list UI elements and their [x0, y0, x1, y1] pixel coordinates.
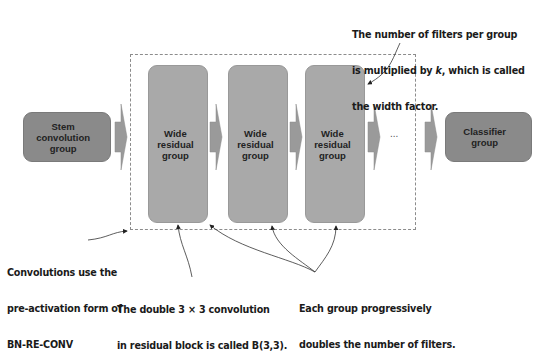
block-line-1: The double 3 × 3 convolution [117, 304, 287, 316]
doubling-pointer-icon-1 [210, 225, 315, 272]
preactivation-line-2: pre-activation form of [7, 303, 122, 315]
block-line-2: in residual block is called B(3,3). [117, 340, 287, 352]
flow-arrow-icon [210, 104, 222, 170]
annotation-preactivation: Convolutions use the pre-activation form… [7, 243, 122, 355]
width-factor-line-2: is multiplied by k, which is called [352, 65, 525, 77]
flow-arrow-icon [115, 104, 127, 170]
doubling-line-2: doubles the number of filters. [299, 339, 455, 351]
preactivation-pointer-icon [88, 231, 127, 240]
width-factor-line-2-post: , which is called [442, 65, 525, 76]
width-factor-line-3: the width factor. [352, 101, 525, 113]
doubling-pointer-icon-2 [272, 226, 315, 272]
annotation-width-factor: The number of filters per group is multi… [352, 5, 525, 125]
annotation-doubling: Each group progressively doubles the num… [299, 279, 455, 355]
block-pointer-icon [178, 225, 192, 277]
width-factor-line-2-pre: is multiplied by [352, 65, 436, 76]
preactivation-line-3: BN-RE-CONV [7, 339, 122, 351]
annotation-block: The double 3 × 3 convolution in residual… [117, 280, 287, 355]
preactivation-line-1: Convolutions use the [7, 267, 122, 279]
width-factor-line-1: The number of filters per group [352, 29, 525, 41]
doubling-pointer-icon-3 [315, 226, 336, 272]
doubling-line-1: Each group progressively [299, 303, 455, 315]
flow-arrow-icon [290, 104, 302, 170]
